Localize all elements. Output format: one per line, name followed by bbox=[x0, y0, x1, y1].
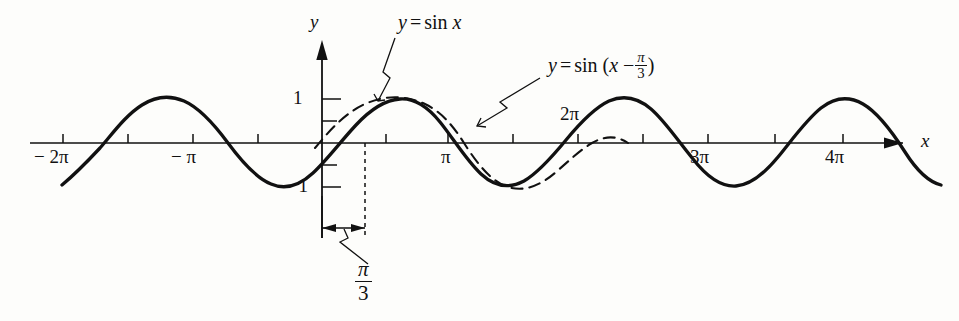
sine-shift-figure: x y − 2π − π π 2π 3π 4π 1 − 1 y=sin x y=… bbox=[0, 0, 959, 321]
label-shift-fraction-denominator: 3 bbox=[635, 65, 646, 81]
leader-sin-x bbox=[374, 38, 395, 101]
label-sin-x-sin: sin bbox=[424, 11, 447, 33]
label-shift-x: x bbox=[609, 54, 618, 76]
label-shift-fraction-numerator: π bbox=[635, 50, 646, 65]
label-sin-x-x: x bbox=[453, 11, 462, 33]
label-shift-fraction: π3 bbox=[635, 50, 646, 81]
label-shift-close-paren: ) bbox=[648, 54, 655, 76]
graph-canvas bbox=[0, 0, 959, 321]
x-tick-label-pi: π bbox=[441, 147, 451, 166]
measure-arrowhead-right bbox=[351, 224, 365, 232]
leader-sin-x-line bbox=[378, 38, 395, 101]
label-shift-equals: = bbox=[557, 54, 574, 76]
phase-shift-numerator: π bbox=[355, 258, 372, 281]
label-sin-x-y: y bbox=[398, 11, 407, 33]
leader-sin-shift-line bbox=[477, 78, 540, 126]
label-shift-y: y bbox=[548, 54, 557, 76]
leader-sin-shift-hook bbox=[477, 118, 486, 127]
curve-label-sin-x: y=sin x bbox=[398, 12, 461, 32]
curve-label-sin-shift: y=sin (x −π3) bbox=[548, 50, 654, 81]
y-tick-label--1: − 1 bbox=[283, 176, 308, 195]
leader-sin-shift bbox=[477, 78, 540, 127]
y-axis-arrowhead bbox=[316, 40, 327, 60]
x-tick-label-3pi: 3π bbox=[690, 147, 709, 166]
phase-shift-fraction: π 3 bbox=[355, 258, 372, 304]
y-tick-label-1: 1 bbox=[293, 88, 303, 107]
x-tick-label--2pi: − 2π bbox=[34, 147, 69, 166]
label-shift-sin: sin bbox=[574, 54, 597, 76]
label-sin-x-equals: = bbox=[407, 11, 424, 33]
y-axis-label: y bbox=[310, 12, 318, 31]
x-tick-label--pi: − π bbox=[171, 147, 196, 166]
phase-shift-denominator: 3 bbox=[355, 281, 372, 305]
label-shift-minus: − bbox=[623, 54, 634, 76]
measure-arrowhead-left bbox=[322, 224, 336, 232]
x-axis-label: x bbox=[921, 131, 929, 150]
x-tick-label-4pi: 4π bbox=[825, 147, 844, 166]
x-tick-label-2pi: 2π bbox=[560, 104, 579, 123]
